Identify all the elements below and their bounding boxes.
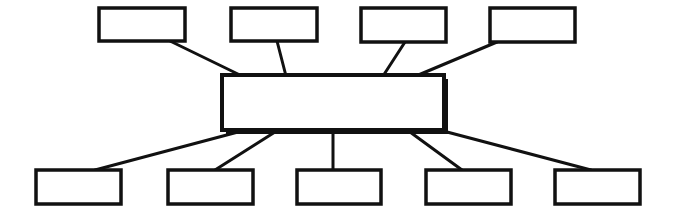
bottom-node-box [36,170,121,204]
top-node-box [361,8,446,42]
top-node-4 [490,8,575,42]
bottom-node-4 [426,170,511,204]
bottom-node-box [426,170,511,204]
bottom-node-box [297,170,381,204]
top-node-box [231,8,317,41]
top-connector-4 [416,42,497,76]
top-connector-2 [277,41,286,76]
bottom-connector-2 [215,132,275,170]
top-node-3 [361,8,446,42]
bottom-node-box [168,170,253,204]
center-node-box [222,75,444,130]
bottom-node-3 [297,170,381,204]
top-node-box [490,8,575,42]
bottom-node-2 [168,170,253,204]
top-connector-3 [383,42,405,76]
bottom-node-5 [555,170,640,204]
top-node-2 [231,8,317,41]
center-node [222,75,448,134]
top-connector-1 [170,41,242,76]
hub-spoke-diagram [0,0,676,224]
bottom-connector-4 [410,132,462,170]
bottom-connector-5 [447,132,591,170]
bottom-connector-1 [95,132,238,170]
top-node-box [99,8,185,41]
bottom-node-box [555,170,640,204]
top-node-1 [99,8,185,41]
bottom-node-1 [36,170,121,204]
